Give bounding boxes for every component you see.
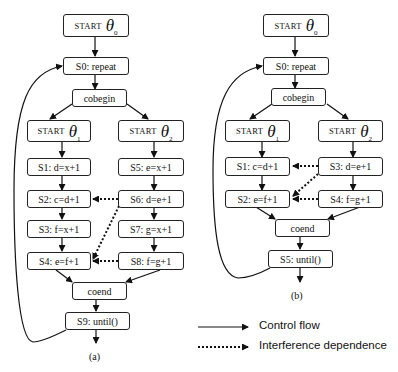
b-cobegin-node: cobegin — [271, 88, 326, 106]
a-s1-node: S1: d=x+1 — [27, 158, 91, 176]
interference-a-s6-s4 — [93, 206, 119, 259]
b-coend-node: coend — [275, 219, 330, 237]
legend-interference-label: Interference dependence — [259, 339, 387, 351]
b-start-theta1-node: START θ1 — [225, 120, 290, 142]
edge-b-s4-coend — [328, 207, 360, 219]
a-s7-node: S7: g=x+1 — [118, 220, 184, 238]
edge-a-cobegin-start1 — [50, 104, 72, 119]
edge-a-s8-coend — [126, 270, 160, 282]
edge-b-cobegin-start2 — [327, 104, 348, 119]
legend-control-flow-label: Control flow — [259, 319, 320, 331]
a-s6-node: S6: d=e+1 — [118, 190, 184, 208]
a-start-theta2-node: START θ2 — [118, 120, 184, 142]
theta-symbol: θ1 — [69, 123, 81, 140]
a-s5-node: S5: e=x+1 — [118, 158, 184, 176]
edges-layer — [0, 0, 398, 372]
edge-a-cobegin-start2 — [127, 104, 148, 119]
a-coend-node: coend — [72, 282, 127, 300]
b-s2-node: S2: e=f+1 — [225, 190, 290, 208]
a-s4-node: S4: e=f+1 — [27, 252, 91, 270]
theta-symbol: θ0 — [306, 17, 318, 34]
caption-a: (a) — [89, 351, 100, 362]
a-cobegin-node: cobegin — [72, 89, 127, 107]
theta-symbol: θ2 — [161, 123, 173, 140]
b-s5-until-node: S5: until() — [268, 250, 333, 268]
b-s1-node: S1: c=d+1 — [225, 157, 290, 176]
b-s3-node: S3: d=e+1 — [318, 157, 383, 176]
a-s9-until-node: S9: until() — [65, 312, 130, 330]
theta-symbol: θ2 — [360, 123, 372, 140]
a-s8-node: S8: f=g+1 — [118, 252, 184, 270]
b-start-theta2-node: START θ2 — [318, 120, 383, 142]
a-start-theta0-node: START θ0 — [63, 14, 129, 37]
caption-b: (b) — [291, 290, 303, 301]
theta-symbol: θ1 — [267, 123, 279, 140]
edge-b-cobegin-start1 — [250, 104, 272, 119]
b-start-theta0-node: START θ0 — [263, 14, 329, 37]
edge-a-s4-coend — [56, 270, 72, 282]
a-s3-node: S3: f=x+1 — [27, 220, 91, 238]
b-s0-repeat-node: S0: repeat — [263, 57, 329, 75]
a-start-theta1-node: START θ1 — [27, 120, 91, 142]
a-s2-node: S2: c=d+1 — [27, 190, 91, 208]
a-s0-repeat-node: S0: repeat — [63, 57, 129, 75]
edge-b-s2-coend — [256, 207, 275, 219]
theta-symbol: θ0 — [106, 17, 118, 34]
interference-b-s3-s2 — [293, 174, 318, 196]
b-s4-node: S4: f=g+1 — [318, 190, 383, 208]
